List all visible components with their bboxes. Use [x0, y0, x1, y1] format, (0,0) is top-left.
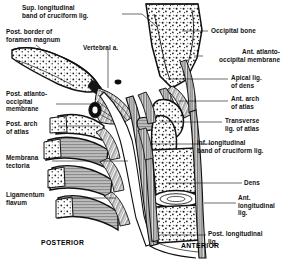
label-transverse-lig-of-atlas: Transverse lig. of atlas [225, 117, 259, 132]
axis-body [152, 148, 199, 196]
label-membrana-tectoria: Membrana tectoria [6, 154, 38, 169]
label-ant-longitudinal-lig: Ant. longitudinal lig. [238, 194, 275, 217]
label-vertebral-artery: Vertebral a. [83, 44, 118, 52]
label-dens: Dens [244, 179, 260, 187]
label-ant-arch-of-atlas: Ant. arch of atlas [231, 95, 259, 110]
label-post-atlanto-occipital-membrane: Post. atlanto- occipital membrane [6, 90, 47, 113]
label-sup-longitudinal-band: Sup. longitudinal band of cruciform lig. [22, 4, 88, 19]
label-ant-atlanto-occipital-membrane: Ant. atlanto- occipital membrane [186, 48, 280, 63]
orientation-posterior: POSTERIOR [41, 239, 84, 246]
label-apical-lig-of-dens: Apical lig. of dens [231, 74, 262, 89]
post-border-foramen-magnum-region [12, 48, 103, 96]
c3-vertebral-body [155, 205, 200, 243]
label-ligamentum-flavum: Ligamentum flavum [6, 191, 45, 206]
orientation-anterior: ANTERIOR [181, 242, 219, 249]
label-post-border-foramen-magnum: Post. border of foramen magnum [6, 28, 60, 43]
label-occipital-bone: Occipital bone [211, 27, 256, 35]
anatomy-figure: Sup. longitudinal band of cruciform lig.… [0, 0, 281, 267]
label-inf-longitudinal-band: Inf. longitudinal band of cruciform lig. [197, 139, 263, 154]
label-post-arch-of-atlas: Post. arch of atlas [6, 120, 37, 135]
occipital-bone-region [146, 4, 202, 88]
